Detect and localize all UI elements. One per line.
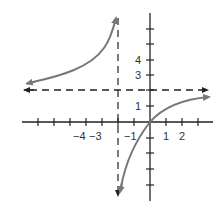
curve-right-branch-start-arrow [120, 183, 122, 192]
x-tick-label-neg4: −4 [73, 130, 86, 142]
y-tick-label-1: 1 [135, 100, 141, 112]
x-tick-label-2: 2 [179, 130, 185, 142]
x-tick-label-neg1: −1 [124, 130, 137, 142]
x-tick-label-1: 1 [163, 130, 169, 142]
rational-function-graph: −4 −3 −1 1 2 4 3 1 [0, 0, 223, 208]
curve-left-branch [33, 18, 116, 82]
y-tick-label-3: 3 [135, 69, 141, 81]
y-tick-label-4: 4 [135, 54, 141, 66]
curve-left-branch-start-arrow [27, 82, 35, 84]
x-tick-label-neg3: −3 [89, 130, 102, 142]
graph-canvas: −4 −3 −1 1 2 4 3 1 [0, 0, 223, 208]
